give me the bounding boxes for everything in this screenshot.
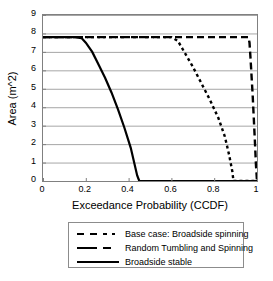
legend-swatch-segment [103,247,111,250]
legend-swatch-solid [77,257,119,267]
y-tick-label: 3 [20,120,36,129]
legend-swatch-dotted [77,229,119,239]
chart-figure: 0123456789 00.20.40.60.81 Exceedance Pro… [0,0,273,281]
y-tick-label: 0 [20,175,36,184]
x-axis-title: Exceedance Probability (CCDF) [42,199,258,212]
legend-label: Broadside stable [125,257,192,267]
y-tick-label: 8 [20,27,36,36]
legend-swatch-segment [112,233,115,236]
legend-item: Random Tumbling and Spinning [69,241,243,254]
series-line-0 [43,37,257,181]
y-tick-label: 4 [20,101,36,110]
y-tick-label: 2 [20,138,36,147]
legend-swatch-segment [77,261,119,264]
plot-area [42,14,258,182]
x-tick-label: 0.8 [198,185,228,194]
y-tick-label: 7 [20,46,36,55]
x-tick-label: 0 [27,185,57,194]
y-tick-label: 9 [20,9,36,18]
legend-swatch-segment [77,247,97,250]
x-tick-label: 0.4 [113,185,143,194]
legend-swatch-long-dash [77,243,119,253]
series-line-1 [43,37,257,181]
legend-swatch-segment [77,233,84,236]
x-tick-label: 0.6 [155,185,185,194]
legend-swatch-segment [90,233,97,236]
series-line-2 [43,37,257,181]
y-tick-label: 5 [20,83,36,92]
y-axis-title: Area (m^2) [6,54,19,144]
x-tick-label: 1 [241,185,271,194]
legend-label: Base case: Broadside spinning [125,229,249,239]
plot-canvas [43,15,257,181]
legend-item: Broadside stable [69,255,243,268]
y-tick-label: 1 [20,157,36,166]
x-tick-label: 0.2 [70,185,100,194]
legend-item: Base case: Broadside spinning [69,227,243,240]
legend-swatch-segment [103,233,107,236]
legend-label: Random Tumbling and Spinning [125,243,253,253]
y-tick-label: 6 [20,64,36,73]
chart-legend: Base case: Broadside spinningRandom Tumb… [68,222,244,268]
